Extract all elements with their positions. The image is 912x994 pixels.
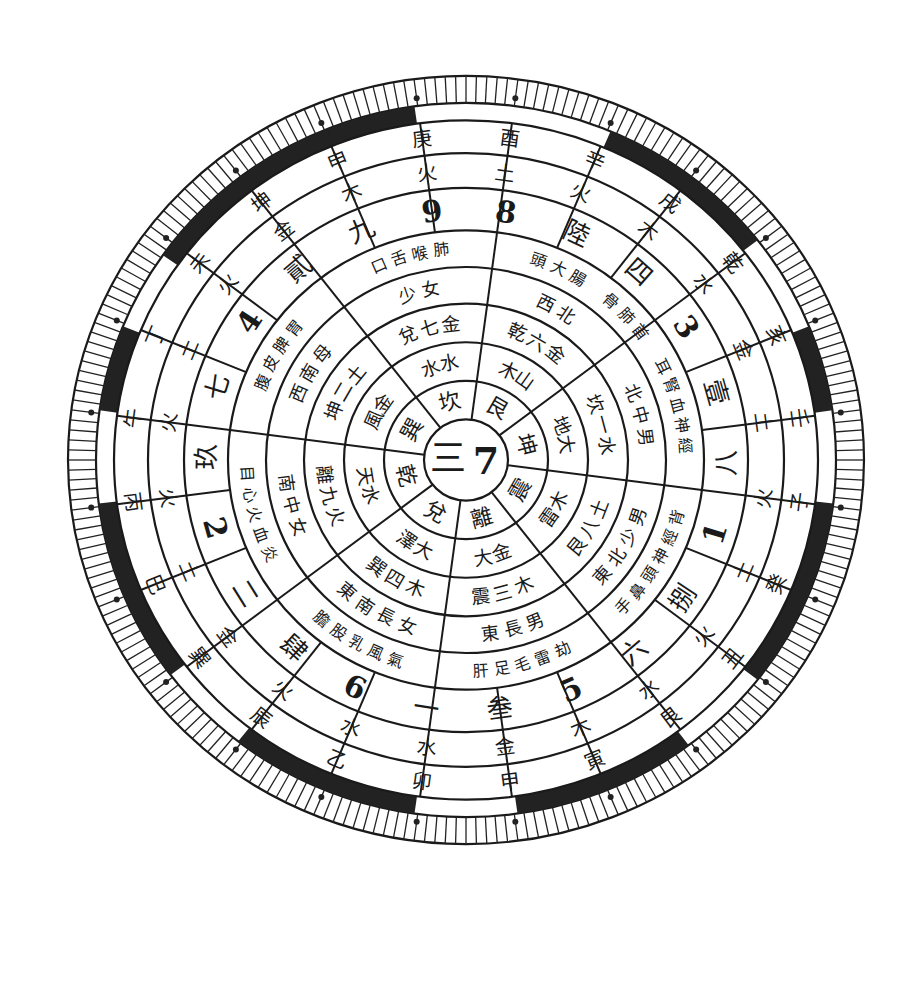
direction-ring-cell: 巳 [141,570,171,598]
ring5-cell: 女 [396,613,420,639]
trigram-label: 震 [503,474,536,506]
number-ring-cell: 八 [711,450,741,476]
ring5-cell: 東 [333,577,360,605]
ring6-cell: 氣 [385,648,406,671]
ring4-cell: 離 [313,464,337,485]
direction-ring-cell: 酉 [498,125,521,151]
number-ring-cell: 七 [199,370,235,404]
ring5-cell: 母 [309,340,337,367]
ring5-cell: 南 [275,473,298,494]
ring6-cell: 經 [675,437,695,454]
luo-shu-compass-diagram: 坎艮坤震離兌乾巽水水木山地大雷木大金澤大天水風金兌七金乾六金坎一水艮八土震三木巽… [0,0,912,994]
ring6-cell: 心 [239,485,260,504]
number-ring-cell: 一 [411,691,441,725]
ring4-cell: 三 [491,579,515,605]
trigram-label: 乾 [391,462,421,490]
ring6-cell: 血 [666,395,688,415]
ring6-cell: 腹 [251,371,275,393]
element-ring-cell: 金 [494,734,517,760]
number-ring-cell: 貳 [278,249,317,289]
ring6-cell: 頭 [638,563,663,587]
number-ring-cell: 玖 [191,444,221,470]
ring6-cell: 肝 [472,661,489,681]
number-ring-cell: 六 [614,632,653,672]
number-ring-cell: 9 [419,193,444,230]
ring6-cell: 喉 [410,242,430,264]
element-ring-cell: 水 [688,269,719,299]
concentric-rings [148,153,784,767]
ring5-cell: 南 [296,360,323,386]
ring6-cell: 炎 [257,542,281,565]
trigram-label: 艮 [481,392,513,425]
number-ring-cell: 肆 [274,628,313,668]
direction-ring-cell: 壬 [786,406,812,429]
ring4-cell: 木 [511,571,537,599]
element-ring-cell: 金 [212,621,243,651]
number-ring-cell: 二 [226,574,265,612]
ring5-cell: 北 [553,301,580,328]
ring6-cell: 劫 [551,638,574,662]
ring4-cell: 震 [470,584,491,608]
ring5-cell: 男 [625,504,651,528]
ring4-cell: 金 [441,312,462,336]
ring6-cell: 經 [658,527,682,549]
direction-ring-cell: 午 [120,406,146,429]
number-ring-cell: 陸 [559,214,595,252]
ring6-cell: 腸 [566,266,589,290]
direction-ring-cell: 乙 [324,745,352,775]
element-ring-cell: 火 [415,160,438,186]
ring6-cell: 血 [249,524,272,546]
number-ring-cell: 6 [338,667,372,708]
direction-ring-cell: 子 [786,491,812,514]
element-ring-cell: 火 [212,269,243,299]
ring6-cell: 脾 [270,334,295,358]
number-ring-cell: 1 [695,518,735,548]
direction-ring-cell: 卯 [411,768,434,794]
ring6-cell: 神 [649,545,673,568]
trigram-label: 巽 [396,414,429,446]
element-ring-cell: 土 [728,557,758,585]
graduated-outer-band [68,76,864,844]
element-ring-cell: 火 [155,411,181,434]
ring5-cell: 男 [634,427,657,448]
ring6-cell: 神 [671,416,692,435]
ring5-cell: 北 [603,544,630,571]
ring4-cell: 一 [590,413,616,437]
element-ring-cell: 金 [728,335,758,363]
ring6-cell: 頭 [528,249,549,272]
element-ring-cell: 火 [268,674,298,705]
ring5-cell: 中 [279,494,304,517]
ring5-cell: 長 [373,603,398,630]
number-ring-cell: 壹 [698,376,734,409]
direction-ring-cell: 庚 [411,125,434,151]
element-ring-cell: 水 [633,674,663,705]
ring6-cell: 足 [492,658,511,679]
direction-ring-cell: 丁 [141,322,171,350]
ring6-cell: 背 [665,508,688,529]
direction-ring-cell: 甲 [498,768,521,794]
ring5-cell: 女 [286,515,312,540]
direction-ring-cell: 寅 [581,745,609,775]
element-ring-cell: 火 [155,486,181,509]
direction-ring-cell: 丙 [120,491,146,514]
ring6-cell: 目 [237,465,257,482]
ring6-cell: 首 [628,320,653,344]
ring6-cell: 風 [364,641,386,665]
number-ring-cell: 2 [196,513,235,543]
trigram-label: 離 [468,503,496,533]
ring6-cell: 膽 [309,607,334,632]
number-ring-cell: 3 [666,309,707,345]
ring3-cell: 大 [554,433,579,455]
ring4-cell: 水 [595,435,619,456]
element-ring-cell: 木 [633,215,663,246]
ring6-cell: 耳 [650,355,674,378]
element-ring-cell: 水 [337,713,365,743]
center-disc: 三 7 [430,438,499,483]
direction-ring-cell: 癸 [762,570,792,598]
number-ring-cell: 四 [619,253,658,293]
direction-ring-cell: 辛 [581,146,609,176]
center-number: 7 [473,438,499,483]
ring6-cell: 火 [243,505,265,525]
element-ring-cell: 火 [567,178,595,208]
ring5-cell: 北 [620,381,646,406]
